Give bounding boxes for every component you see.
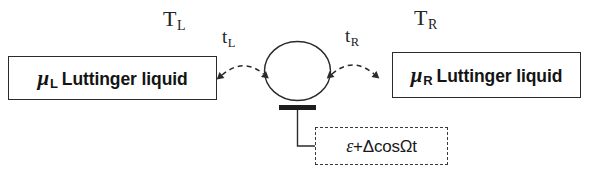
tunneling-subscript-left: L bbox=[228, 36, 236, 50]
gate-drive-formula: ε+ΔcosΩt bbox=[346, 136, 417, 157]
gate-electrode-bar bbox=[279, 105, 316, 110]
gate-drive-static-term: ε bbox=[346, 136, 353, 156]
quantum-dot-circle bbox=[265, 42, 331, 101]
temperature-label-left: TL bbox=[163, 6, 186, 34]
quantum-dot-schematic: μLLuttinger liquid μRLuttinger liquid TL… bbox=[0, 0, 590, 182]
lead-box-left: μLLuttinger liquid bbox=[8, 56, 217, 100]
gate-drive-frequency: Ω bbox=[400, 137, 413, 156]
tunneling-symbol-left: t bbox=[222, 26, 227, 47]
lead-material-label-right: Luttinger liquid bbox=[437, 66, 563, 86]
gate-drive-time: t bbox=[412, 137, 417, 156]
lead-label-right: μRLuttinger liquid bbox=[411, 63, 563, 88]
gate-drive-amplitude: Δ bbox=[363, 137, 374, 156]
tunneling-arrow-right bbox=[332, 65, 374, 74]
gate-drive-function: cos bbox=[374, 137, 400, 156]
chemical-potential-symbol-left: μ bbox=[37, 66, 49, 90]
chemical-potential-subscript-left: L bbox=[50, 76, 58, 91]
lead-material-label-left: Luttinger liquid bbox=[62, 69, 188, 89]
gate-connector-line bbox=[298, 110, 316, 146]
tunneling-arrow-left bbox=[222, 66, 264, 75]
gate-drive-box: ε+ΔcosΩt bbox=[315, 127, 448, 165]
temperature-subscript-right: R bbox=[428, 17, 437, 32]
temperature-label-right: TR bbox=[414, 5, 437, 33]
temperature-subscript-left: L bbox=[177, 18, 186, 33]
tunneling-label-right: tR bbox=[345, 25, 359, 50]
temperature-symbol-right: T bbox=[414, 5, 427, 30]
chemical-potential-subscript-right: R bbox=[423, 73, 432, 88]
chemical-potential-symbol-right: μ bbox=[411, 63, 423, 87]
tunneling-label-left: tL bbox=[222, 26, 235, 51]
tunneling-subscript-right: R bbox=[351, 35, 359, 49]
lead-box-right: μRLuttinger liquid bbox=[392, 52, 581, 98]
gate-drive-plus: + bbox=[353, 137, 363, 156]
lead-label-left: μLLuttinger liquid bbox=[37, 66, 187, 91]
temperature-symbol-left: T bbox=[163, 6, 176, 31]
tunneling-symbol-right: t bbox=[345, 25, 350, 46]
